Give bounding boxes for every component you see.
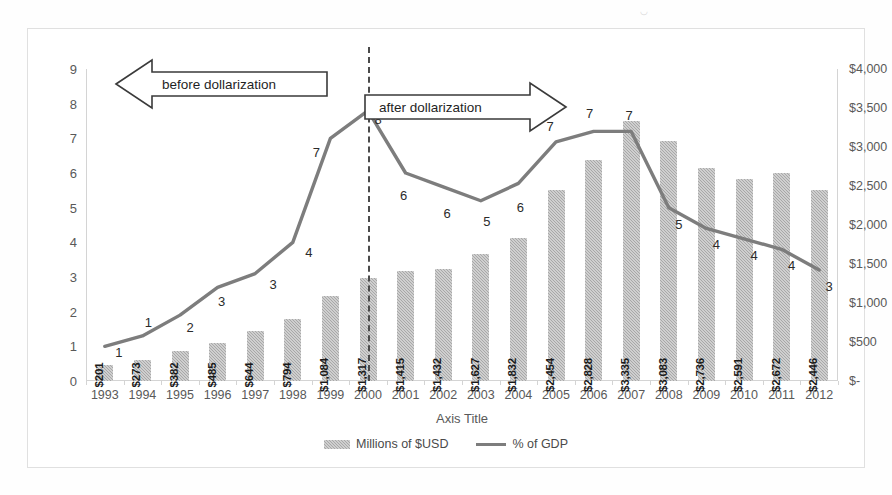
line-value-label-2008: 5	[675, 216, 682, 231]
category-label-1997: 1997	[241, 388, 269, 402]
tick-mark-18	[763, 381, 764, 385]
right-axis-tick-8: $4,000	[849, 62, 887, 76]
tick-mark-17	[725, 381, 726, 385]
legend-item-percent-of-gdp[interactable]: % of GDP	[476, 437, 568, 451]
right-axis-tick-0: $-	[849, 374, 860, 388]
right-axis-tick-1: $500	[849, 335, 877, 349]
tick-mark-14	[612, 381, 613, 385]
tick-mark-13	[575, 381, 576, 385]
line-value-label-2012: 3	[826, 279, 833, 294]
tick-mark-11	[500, 381, 501, 385]
line-value-label-1995: 2	[186, 320, 193, 335]
tick-mark-19	[800, 381, 801, 385]
tick-mark-7	[349, 381, 350, 385]
right-axis-tick-5: $2,500	[849, 179, 887, 193]
tick-mark-8	[387, 381, 388, 385]
axis-title: Axis Title	[86, 411, 838, 426]
legend-label-millions-of-usd: Millions of $USD	[356, 437, 448, 451]
tick-mark-9	[424, 381, 425, 385]
left-axis-tick-0: 0	[70, 374, 77, 389]
tick-mark-0	[86, 381, 87, 385]
line-value-label-1994: 1	[145, 314, 152, 329]
tick-mark-6	[312, 381, 313, 385]
tick-mark-3	[199, 381, 200, 385]
category-label-1998: 1998	[279, 388, 307, 402]
right-axis-tick-3: $1,500	[849, 257, 887, 271]
tick-mark-16	[688, 381, 689, 385]
tick-mark-2	[161, 381, 162, 385]
line-value-label-1999: 7	[313, 145, 320, 160]
left-axis-tick-2: 2	[70, 304, 77, 319]
line-value-label-2001: 6	[400, 188, 407, 203]
tick-mark-10	[462, 381, 463, 385]
bar-swatch-icon	[324, 440, 350, 449]
category-label-1993: 1993	[91, 388, 119, 402]
line-value-label-1993: 1	[115, 345, 122, 360]
legend-item-millions-of-usd[interactable]: Millions of $USD	[324, 437, 448, 451]
left-axis-tick-8: 8	[70, 96, 77, 111]
tick-mark-12	[537, 381, 538, 385]
left-axis-tick-7: 7	[70, 131, 77, 146]
left-axis-tick-3: 3	[70, 270, 77, 285]
tick-mark-1	[124, 381, 125, 385]
chart-legend: Millions of $USD % of GDP	[28, 437, 864, 451]
line-value-label-2006: 7	[586, 106, 593, 121]
left-axis-tick-1: 1	[70, 339, 77, 354]
tick-mark-end	[838, 381, 839, 385]
annotation-after-dollarization-label: after dollarization	[379, 100, 482, 115]
legend-label-percent-of-gdp: % of GDP	[512, 437, 568, 451]
left-axis-tick-5: 5	[70, 200, 77, 215]
tick-mark-5	[274, 381, 275, 385]
line-value-label-1997: 3	[270, 276, 277, 291]
right-axis-tick-6: $3,000	[849, 140, 887, 154]
line-value-label-1998: 4	[305, 245, 312, 260]
line-value-label-2002: 6	[444, 205, 451, 220]
annotation-before-dollarization: before dollarization	[114, 56, 329, 112]
line-value-label-1996: 3	[218, 294, 225, 309]
line-value-label-2009: 4	[713, 237, 720, 252]
annotation-after-dollarization: after dollarization	[363, 79, 568, 135]
left-axis-tick-4: 4	[70, 235, 77, 250]
tick-mark-15	[650, 381, 651, 385]
line-swatch-icon	[476, 443, 506, 446]
left-axis-tick-6: 6	[70, 166, 77, 181]
line-value-label-2007: 7	[626, 108, 633, 123]
category-label-1995: 1995	[166, 388, 194, 402]
tick-mark-4	[236, 381, 237, 385]
category-label-1994: 1994	[128, 388, 156, 402]
line-value-label-2011: 4	[788, 258, 795, 273]
line-value-label-2010: 4	[750, 247, 757, 262]
right-axis-tick-7: $3,500	[849, 101, 887, 115]
gdp-polyline	[105, 111, 819, 347]
chart-area: 0123456789 $-$500$1,000$1,500$2,000$2,50…	[27, 28, 865, 468]
line-value-label-2004: 6	[517, 200, 524, 215]
right-axis-tick-2: $1,000	[849, 296, 887, 310]
left-axis-tick-9: 9	[70, 62, 77, 77]
chart-screenshot: ◡ ◤ 0123456789 $-$500$1,000$1,500$2,000$…	[0, 0, 892, 495]
right-axis-tick-4: $2,000	[849, 218, 887, 232]
scan-artifact-top: ◡	[640, 6, 648, 16]
category-label-1996: 1996	[204, 388, 232, 402]
annotation-before-dollarization-label: before dollarization	[162, 77, 276, 92]
line-value-label-2003: 5	[483, 213, 490, 228]
